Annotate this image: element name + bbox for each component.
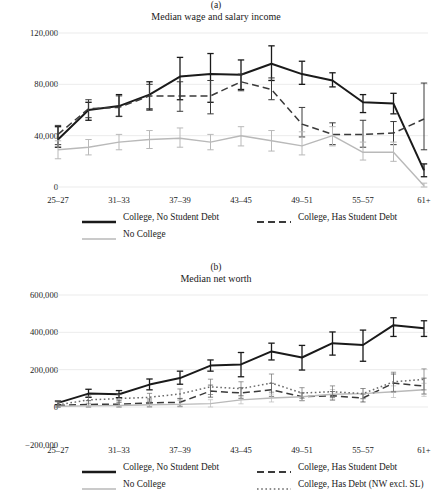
panel-a-title: Median wage and salary income [0, 11, 432, 23]
line-dotted-icon [257, 480, 291, 490]
panel-a-chart-svg [0, 23, 432, 195]
legend-label: No College [123, 479, 166, 490]
x-tick-label: 49–51 [291, 195, 312, 205]
legend-item[interactable]: College, Has Student Debt [257, 462, 397, 473]
x-tick-label: 55–57 [352, 445, 373, 455]
x-tick-label: 25–27 [47, 195, 68, 205]
legend-item[interactable]: No College [82, 479, 257, 490]
panel-b: (b) Median net worth −200,0000200,000400… [0, 262, 432, 501]
x-tick-label: 37–39 [169, 195, 190, 205]
panel-a-plot-area: 040,00080,000120,000 [0, 23, 432, 195]
panel-b-legend: College, No Student DebtCollege, Has Stu… [0, 459, 432, 493]
x-tick-label: 31–33 [108, 195, 129, 205]
legend-row: No College [0, 226, 432, 243]
x-tick-label: 43–45 [230, 195, 251, 205]
line-solid-thin-gray-icon [82, 230, 116, 240]
line-solid-thick-icon [82, 213, 116, 223]
panel-a-legend: College, No Student DebtCollege, Has Stu… [0, 209, 432, 243]
line-solid-thin-gray-icon [82, 480, 116, 490]
panel-b-x-axis-labels: 25–2731–3337–3943–4549–5155–5761+ [0, 445, 432, 459]
legend-label: College, Has Debt (NW excl. SL) [298, 479, 424, 490]
legend-label: College, No Student Debt [123, 212, 219, 223]
legend-item[interactable]: College, Has Student Debt [257, 212, 397, 223]
legend-label: College, No Student Debt [123, 462, 219, 473]
panel-b-label: (b) [0, 262, 432, 273]
panel-b-plot-area: −200,0000200,000400,000600,000 [0, 285, 432, 445]
line-dashed-icon [257, 463, 291, 473]
panel-a-label: (a) [0, 0, 432, 11]
legend-label: No College [123, 229, 166, 240]
x-tick-label: 43–45 [230, 445, 251, 455]
legend-label: College, Has Student Debt [298, 212, 397, 223]
legend-item[interactable]: No College [82, 229, 257, 240]
x-tick-label: 25–27 [47, 445, 68, 455]
x-tick-label: 49–51 [291, 445, 312, 455]
x-tick-label: 61+ [417, 195, 430, 205]
x-tick-label: 37–39 [169, 445, 190, 455]
panel-b-title: Median net worth [0, 273, 432, 285]
line-dashed-icon [257, 213, 291, 223]
line-solid-thick-icon [82, 463, 116, 473]
legend-row: College, No Student DebtCollege, Has Stu… [0, 459, 432, 476]
figure-container: (a) Median wage and salary income 040,00… [0, 0, 432, 501]
legend-item[interactable]: College, No Student Debt [82, 462, 257, 473]
legend-item[interactable]: College, Has Debt (NW excl. SL) [257, 479, 424, 490]
legend-label: College, Has Student Debt [298, 462, 397, 473]
legend-row: College, No Student DebtCollege, Has Stu… [0, 209, 432, 226]
legend-row: No CollegeCollege, Has Debt (NW excl. SL… [0, 476, 432, 493]
x-tick-label: 31–33 [108, 445, 129, 455]
x-tick-label: 55–57 [352, 195, 373, 205]
legend-item[interactable]: College, No Student Debt [82, 212, 257, 223]
panel-b-chart-svg [0, 285, 432, 445]
x-tick-label: 61+ [417, 445, 430, 455]
panel-a: (a) Median wage and salary income 040,00… [0, 0, 432, 268]
panel-a-x-axis-labels: 25–2731–3337–3943–4549–5155–5761+ [0, 195, 432, 209]
